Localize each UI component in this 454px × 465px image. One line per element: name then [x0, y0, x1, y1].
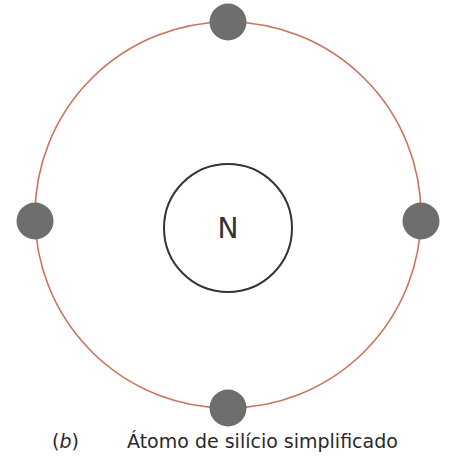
atom-diagram: N — [0, 0, 454, 465]
electron-top — [210, 4, 247, 41]
figure-label: (b) — [52, 430, 79, 452]
figure-caption: (b) Átomo de silício simplificado — [0, 430, 454, 460]
electron-right — [403, 203, 440, 240]
electron-left — [17, 203, 54, 240]
electron-bottom — [210, 390, 247, 427]
nucleus-label: N — [218, 212, 239, 245]
figure-title: Átomo de silício simplificado — [127, 430, 398, 452]
